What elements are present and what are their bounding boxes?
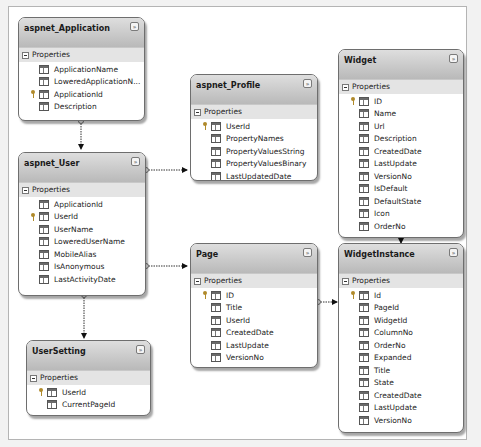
property-row[interactable]: Description — [339, 133, 463, 146]
entity-user-setting[interactable]: UserSetting » Properties UserId CurrentP… — [26, 340, 151, 416]
property-row[interactable]: WidgetId — [339, 314, 463, 327]
property-row[interactable]: CreatedDate — [339, 389, 463, 402]
column-icon — [211, 328, 221, 337]
property-name: UserId — [62, 388, 86, 397]
properties-section-toggle[interactable]: Properties — [339, 80, 463, 94]
property-row[interactable]: LastUpdate — [339, 158, 463, 171]
property-row[interactable]: VersionNo — [191, 352, 317, 365]
entity-aspnet-application[interactable]: aspnet_Application » Properties Applicat… — [18, 17, 145, 121]
property-row[interactable]: Url — [339, 120, 463, 133]
collapse-chevron-icon[interactable]: » — [449, 248, 458, 257]
collapse-minus-icon[interactable] — [194, 109, 201, 116]
property-row[interactable]: LoweredUserName — [19, 236, 145, 249]
column-icon — [359, 122, 369, 131]
property-row[interactable]: UserName — [19, 223, 145, 236]
property-row[interactable]: Title — [191, 302, 317, 315]
property-name: CreatedDate — [374, 147, 422, 156]
property-name: DefaultState — [374, 197, 421, 206]
property-row[interactable]: ID — [339, 95, 463, 108]
entity-header[interactable]: Page » — [191, 244, 317, 274]
property-row[interactable]: PropertyValuesBinary — [191, 158, 317, 171]
column-icon — [359, 291, 369, 300]
property-row[interactable]: LastUpdate — [339, 402, 463, 415]
property-row[interactable]: DefaultState — [339, 195, 463, 208]
property-row[interactable]: Expanded — [339, 352, 463, 365]
collapse-chevron-icon[interactable]: » — [136, 345, 145, 354]
collapse-minus-icon[interactable] — [342, 84, 349, 91]
property-row[interactable]: LastUpdatedDate — [191, 170, 317, 181]
property-row[interactable]: ID — [191, 289, 317, 302]
property-row[interactable]: MobileAlias — [19, 248, 145, 261]
property-row[interactable]: Description — [19, 101, 144, 114]
property-row[interactable]: Title — [339, 364, 463, 377]
property-name: LastUpdate — [226, 341, 269, 350]
column-icon — [39, 65, 49, 74]
property-row[interactable]: ApplicationId — [19, 88, 144, 101]
entity-header[interactable]: UserSetting » — [27, 341, 150, 371]
property-row[interactable]: CreatedDate — [339, 145, 463, 158]
entity-header[interactable]: aspnet_Profile » — [191, 75, 317, 105]
property-row[interactable]: CurrentPageId — [27, 399, 150, 412]
property-row[interactable]: OrderNo — [339, 220, 463, 233]
property-row[interactable]: LastUpdate — [191, 339, 317, 352]
property-row[interactable]: Icon — [339, 208, 463, 221]
property-row[interactable]: ColumnNo — [339, 327, 463, 340]
entity-page[interactable]: Page » Properties ID Title UserId Create… — [190, 243, 318, 368]
property-row[interactable]: IsDefault — [339, 183, 463, 196]
column-icon — [211, 341, 221, 350]
entity-header[interactable]: WidgetInstance » — [339, 244, 463, 274]
property-row[interactable]: PropertyValuesString — [191, 145, 317, 158]
entity-widget[interactable]: Widget » Properties ID Name Url Descript… — [338, 49, 464, 238]
property-row[interactable]: LoweredApplicationN... — [19, 76, 144, 89]
collapse-minus-icon[interactable] — [22, 52, 29, 59]
property-row[interactable]: LastActivityDate — [19, 273, 145, 286]
property-row[interactable]: State — [339, 377, 463, 390]
properties-section-toggle[interactable]: Properties — [339, 274, 463, 288]
property-row[interactable]: ApplicationId — [19, 198, 145, 211]
property-row[interactable]: Id — [339, 289, 463, 302]
collapse-chevron-icon[interactable]: » — [130, 22, 139, 31]
property-row[interactable]: UserId — [191, 314, 317, 327]
property-row[interactable]: Name — [339, 108, 463, 121]
property-name: PropertyNames — [226, 134, 284, 143]
property-name: ApplicationName — [54, 65, 118, 74]
properties-section-toggle[interactable]: Properties — [19, 48, 144, 62]
property-row[interactable]: CreatedDate — [191, 327, 317, 340]
property-row[interactable]: VersionNo — [339, 414, 463, 427]
properties-section-toggle[interactable]: Properties — [191, 274, 317, 288]
property-row[interactable]: PropertyNames — [191, 133, 317, 146]
collapse-chevron-icon[interactable]: » — [303, 79, 312, 88]
property-name: WidgetId — [374, 316, 407, 325]
property-name: IsDefault — [374, 184, 408, 193]
column-icon — [359, 328, 369, 337]
property-name: LastActivityDate — [54, 275, 116, 284]
entity-aspnet-profile[interactable]: aspnet_Profile » Properties UserId Prope… — [190, 74, 318, 181]
entity-header[interactable]: aspnet_Application » — [19, 18, 144, 48]
collapse-minus-icon[interactable] — [22, 187, 29, 194]
property-row[interactable]: PageId — [339, 302, 463, 315]
property-row[interactable]: UserId — [19, 211, 145, 224]
property-row[interactable]: IsAnonymous — [19, 261, 145, 274]
entity-header[interactable]: aspnet_User » — [19, 153, 145, 183]
entity-widget-instance[interactable]: WidgetInstance » Properties Id PageId Wi… — [338, 243, 464, 433]
collapse-chevron-icon[interactable]: » — [131, 157, 140, 166]
collapse-minus-icon[interactable] — [30, 375, 37, 382]
column-icon — [39, 200, 49, 209]
property-name: Name — [374, 109, 396, 118]
collapse-chevron-icon[interactable]: » — [449, 54, 458, 63]
property-list: ApplicationName LoweredApplicationN... A… — [19, 62, 144, 117]
entity-aspnet-user[interactable]: aspnet_User » Properties ApplicationId U… — [18, 152, 146, 296]
property-row[interactable]: OrderNo — [339, 339, 463, 352]
property-row[interactable]: UserId — [27, 386, 150, 399]
property-name: CurrentPageId — [62, 400, 115, 409]
entity-header[interactable]: Widget » — [339, 50, 463, 80]
property-row[interactable]: ApplicationName — [19, 63, 144, 76]
collapse-minus-icon[interactable] — [194, 278, 201, 285]
properties-section-toggle[interactable]: Properties — [27, 371, 150, 385]
properties-section-toggle[interactable]: Properties — [19, 183, 145, 197]
properties-section-toggle[interactable]: Properties — [191, 105, 317, 119]
collapse-minus-icon[interactable] — [342, 278, 349, 285]
collapse-chevron-icon[interactable]: » — [303, 248, 312, 257]
property-row[interactable]: VersionNo — [339, 170, 463, 183]
property-row[interactable]: UserId — [191, 120, 317, 133]
